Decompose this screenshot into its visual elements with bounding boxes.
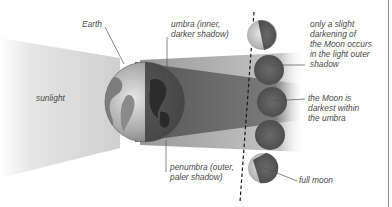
full-moon — [248, 153, 278, 183]
penumbral-moon-upper — [254, 55, 284, 85]
penumbra-label: penumbra (outer, paler shadow) — [170, 162, 234, 182]
partially-lit-moon-top — [247, 20, 277, 50]
umbral-moon — [257, 87, 287, 117]
earth-label: Earth — [82, 19, 102, 29]
darkest-label: the Moon is darkest within the umbra — [308, 93, 359, 123]
penumbral-moon-lower — [255, 120, 285, 150]
full-moon-label: full moon — [299, 175, 333, 185]
umbra-label: umbra (inner, darker shadow) — [171, 19, 229, 39]
sunlight-label: sunlight — [36, 93, 65, 103]
lunar-eclipse-diagram: Earth sunlight umbra (inner, darker shad… — [0, 0, 392, 207]
right-border — [388, 0, 389, 207]
sunlight-beam — [0, 38, 120, 178]
slight-darkening-label: only a slight darkening of the Moon occu… — [310, 19, 372, 69]
